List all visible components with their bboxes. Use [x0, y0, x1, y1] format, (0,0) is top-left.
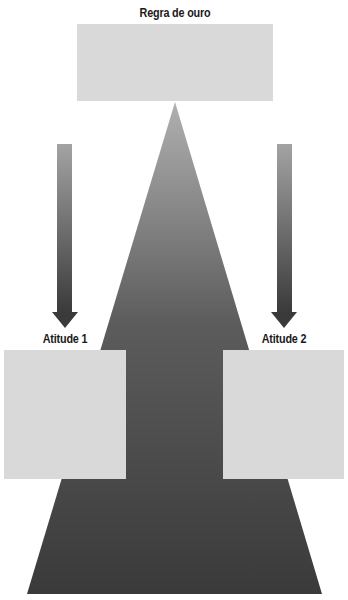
- left-label: Atitude 1: [29, 332, 101, 346]
- left-box: [4, 350, 126, 479]
- right-arrow-icon: [271, 144, 297, 328]
- right-label: Atitude 2: [248, 332, 320, 346]
- right-box: [223, 350, 344, 479]
- top-label: Regra de ouro: [87, 6, 263, 20]
- top-box: [77, 24, 273, 101]
- diagram-canvas: Regra de ouro Atitude 1 Atitude 2: [0, 0, 348, 600]
- left-arrow-icon: [52, 144, 78, 328]
